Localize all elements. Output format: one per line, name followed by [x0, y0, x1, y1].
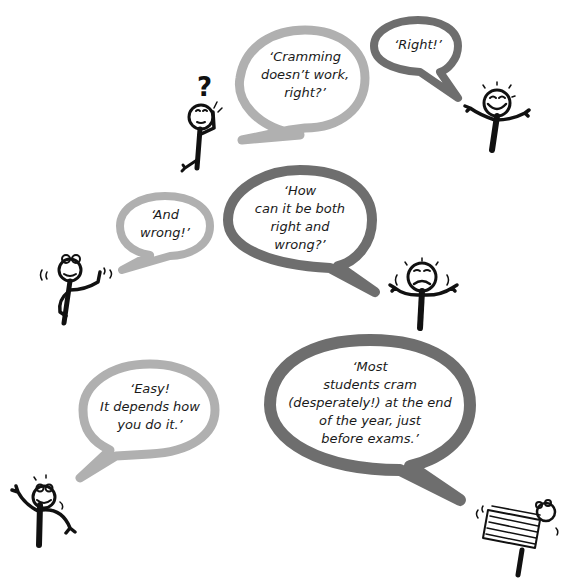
figure-questioning: ? — [182, 72, 222, 171]
figure-book-carrier — [477, 500, 558, 575]
bubble-text-most-students: ‘Most students cram (desperately!) at th… — [272, 358, 468, 448]
figure-worried — [390, 258, 457, 328]
bubble-text-and-wrong: ‘And wrong!’ — [125, 206, 205, 242]
figure-pointing — [41, 255, 112, 323]
bubble-text-how-both: ‘How can it be both right and wrong?’ — [235, 182, 365, 254]
bubble-text-cramming: ‘Cramming doesn’t work, right?’ — [245, 48, 365, 102]
figure-cheerful — [465, 82, 529, 150]
illustration-canvas: ? — [0, 0, 569, 578]
figure-waving — [12, 475, 75, 545]
bubble-text-right: ‘Right!’ — [378, 36, 458, 54]
speech-bubble-right — [374, 20, 458, 98]
book-stack-icon — [483, 506, 540, 548]
question-mark-icon: ? — [197, 72, 212, 102]
bubble-text-easy: ‘Easy! It depends how you do it.’ — [88, 380, 212, 434]
